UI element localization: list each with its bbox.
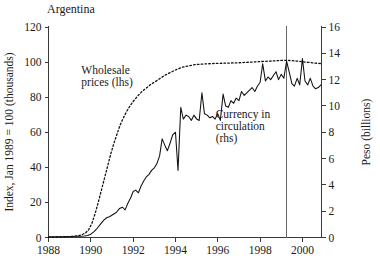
- right-tick-label: 12: [329, 74, 341, 86]
- bottom-tick-label: 2000: [291, 244, 314, 256]
- wholesale-prices-label: Wholesale: [81, 64, 130, 76]
- chart-canvas: Argentina Index, Jan 1989 = 100 (thousan…: [0, 0, 380, 266]
- bottom-tick-label: 1990: [79, 244, 102, 256]
- bottom-tick-label: 1992: [122, 244, 145, 256]
- chart-title: Argentina: [47, 2, 95, 16]
- left-tick-label: 40: [30, 161, 42, 173]
- currency-in-circulation-label: circulation: [216, 120, 265, 132]
- wholesale-prices-label: prices (lhs): [81, 76, 133, 89]
- right-tick-label: 0: [329, 232, 335, 244]
- bottom-axis-ticks: 1988199019921994199619982000: [37, 238, 314, 256]
- currency-in-circulation-label: (rhs): [216, 132, 238, 145]
- right-axis-ticks: 0246810121416: [322, 21, 341, 244]
- left-tick-label: 0: [36, 232, 42, 244]
- left-axis-ticks: 020406080100120: [24, 21, 48, 244]
- left-tick-label: 60: [30, 126, 42, 138]
- left-axis-title: Index, Jan 1989 = 100 (thousands): [3, 52, 16, 211]
- bottom-tick-label: 1988: [37, 244, 60, 256]
- left-tick-label: 20: [30, 196, 42, 208]
- chart-figure: Argentina Index, Jan 1989 = 100 (thousan…: [0, 0, 380, 266]
- right-tick-label: 4: [329, 179, 335, 191]
- right-axis-title: Peso (billions): [360, 98, 373, 165]
- right-tick-label: 16: [329, 21, 341, 33]
- right-tick-label: 10: [329, 100, 341, 112]
- left-tick-label: 80: [30, 91, 42, 103]
- bottom-tick-label: 1996: [206, 244, 229, 256]
- right-tick-label: 8: [329, 126, 335, 138]
- left-tick-label: 120: [24, 21, 42, 33]
- left-tick-label: 100: [24, 56, 42, 68]
- right-tick-label: 6: [329, 153, 335, 165]
- right-tick-label: 14: [329, 47, 341, 59]
- right-tick-label: 2: [329, 205, 335, 217]
- bottom-tick-label: 1994: [164, 244, 187, 256]
- bottom-tick-label: 1998: [249, 244, 272, 256]
